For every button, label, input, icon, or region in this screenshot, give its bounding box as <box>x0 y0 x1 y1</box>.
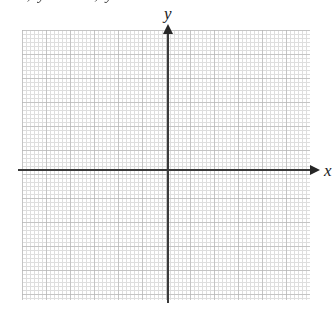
grid-lines <box>22 30 310 300</box>
x-axis-label: x <box>324 162 332 179</box>
y-axis-label: y <box>164 5 172 22</box>
graph-figure: x, y = 2 x, y = 3 x y <box>0 0 336 310</box>
y-axis-line <box>167 33 169 303</box>
arrow-up-icon <box>163 24 173 34</box>
clipped-equation-text: x, y = 2 x, y = 3 <box>18 0 318 3</box>
grid-area <box>22 30 310 300</box>
arrow-right-icon <box>310 165 320 175</box>
